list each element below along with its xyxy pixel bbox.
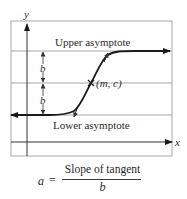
b-upper-dimension: b: [40, 52, 46, 82]
b-lower-dimension: b: [40, 84, 46, 114]
b-upper-label: b: [40, 62, 46, 74]
lower-asymptote-label: Lower asymptote: [53, 119, 130, 131]
slope-formula: a = Slope of tangent b: [0, 163, 187, 197]
formula-equals: =: [49, 173, 56, 188]
inflection-point-label: (m, c): [96, 77, 122, 90]
upper-asymptote-label: Upper asymptote: [55, 36, 131, 48]
x-axis-label: x: [174, 136, 180, 148]
formula-numerator: Slope of tangent: [64, 163, 141, 175]
y-axis-label: y: [23, 8, 29, 20]
formula-denominator: b: [64, 180, 141, 195]
b-lower-label: b: [40, 94, 46, 106]
formula-lhs: a: [38, 174, 44, 189]
